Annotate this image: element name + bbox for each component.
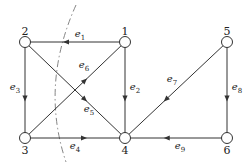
node-label-5: 5 bbox=[224, 26, 231, 37]
edges bbox=[22, 39, 229, 140]
node-label-3: 3 bbox=[22, 145, 29, 156]
node-label-1: 1 bbox=[122, 26, 129, 37]
nodes bbox=[20, 37, 233, 144]
arrowhead-icon bbox=[63, 39, 69, 44]
edge-label-e8: e8 bbox=[232, 82, 242, 95]
node-4 bbox=[120, 133, 131, 144]
arrowhead-icon bbox=[164, 135, 170, 140]
edge-label-e5: e5 bbox=[84, 104, 94, 117]
node-label-4: 4 bbox=[122, 145, 129, 156]
node-5 bbox=[222, 37, 233, 48]
edge-label-e6: e6 bbox=[79, 60, 89, 73]
edge-label-e2: e2 bbox=[130, 82, 140, 95]
edge-e7 bbox=[125, 42, 227, 138]
node-2 bbox=[20, 37, 31, 48]
node-label-6: 6 bbox=[224, 145, 231, 156]
node-3 bbox=[20, 133, 31, 144]
edge-e2 bbox=[122, 42, 127, 138]
arrowhead-icon bbox=[122, 96, 127, 102]
arrowhead-icon bbox=[224, 96, 229, 102]
arrowhead-icon bbox=[81, 135, 87, 140]
edge-e3 bbox=[22, 42, 27, 138]
arrowhead-icon bbox=[22, 96, 27, 102]
edge-label-e4: e4 bbox=[70, 141, 80, 154]
edge-label-e1: e1 bbox=[75, 29, 85, 42]
edge-label-e9: e9 bbox=[175, 141, 185, 154]
edge-label-e7: e7 bbox=[167, 74, 177, 87]
edge-e8 bbox=[224, 42, 229, 138]
node-1 bbox=[120, 37, 131, 48]
node-label-2: 2 bbox=[22, 26, 29, 37]
node-6 bbox=[222, 133, 233, 144]
edge-label-e3: e3 bbox=[10, 82, 20, 95]
